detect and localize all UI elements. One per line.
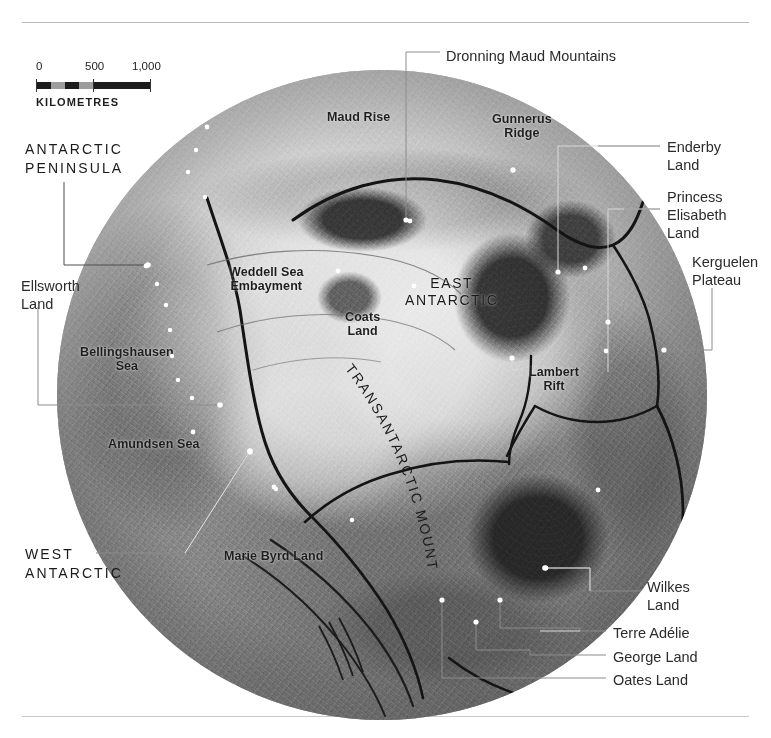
map-label-marie-byrd-land: Marie Byrd Land bbox=[224, 549, 323, 563]
map-label-maud-rise: Maud Rise bbox=[327, 110, 390, 124]
map-callout-terre-adelie: Terre Adélie bbox=[613, 624, 690, 642]
map-callout-dronning-maud-mountains: Dronning Maud Mountains bbox=[446, 47, 616, 65]
map-callout-kerguelen-plateau: Kerguelen Plateau bbox=[692, 253, 758, 289]
map-callout-george-land: George Land bbox=[613, 648, 698, 666]
footer-caption bbox=[24, 722, 26, 728]
antarctica-map-disc[interactable]: TRANSANTARCTIC MOUNTAINS bbox=[57, 70, 707, 720]
top-divider-rule bbox=[22, 22, 749, 23]
map-label-lambert-rift: Lambert Rift bbox=[529, 365, 579, 393]
map-label-coats-land: Coats Land bbox=[345, 310, 380, 338]
map-callout-antarctic-peninsula: ANTARCTIC PENINSULA bbox=[25, 140, 123, 178]
scale-tick-0: 0 bbox=[36, 60, 42, 72]
map-callout-oates-land: Oates Land bbox=[613, 671, 688, 689]
figure-canvas: 0 500 1,000 KILOMETRES bbox=[0, 0, 771, 738]
map-label-gunnerus-ridge: Gunnerus Ridge bbox=[492, 112, 552, 140]
map-label-amundsen-sea: Amundsen Sea bbox=[108, 437, 200, 451]
map-callout-wilkes-land: Wilkes Land bbox=[647, 578, 690, 614]
map-label-weddell-sea: Weddell Sea Embayment bbox=[229, 265, 304, 293]
map-callout-enderby-land: Enderby Land bbox=[667, 138, 721, 174]
map-label-east-antarctic: EAST ANTARCTIC bbox=[405, 275, 498, 309]
map-callout-ellsworth-land: Ellsworth Land bbox=[21, 277, 80, 313]
scale-segment-1 bbox=[37, 82, 51, 89]
map-callout-princess-elisabeth-land: Princess Elisabeth Land bbox=[667, 188, 727, 242]
map-callout-west-antarctic: WEST ANTARCTIC bbox=[25, 545, 123, 583]
map-label-bellingshausen: Bellingshausen Sea bbox=[80, 345, 174, 373]
map-linework: TRANSANTARCTIC MOUNTAINS bbox=[57, 70, 707, 720]
